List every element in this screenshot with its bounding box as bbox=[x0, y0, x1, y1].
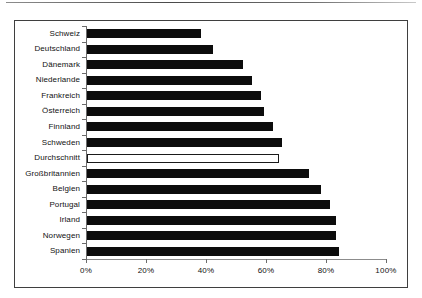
x-axis-tick-label: 40% bbox=[186, 266, 226, 275]
category-axis-tick bbox=[82, 57, 86, 58]
category-label: Finnland bbox=[0, 122, 80, 131]
bar bbox=[87, 122, 273, 131]
category-label: Durchschnitt bbox=[0, 153, 80, 162]
category-label: Niederlande bbox=[0, 75, 80, 84]
bar bbox=[87, 45, 213, 54]
category-label: Schweden bbox=[0, 138, 80, 147]
category-axis-tick bbox=[82, 119, 86, 120]
category-axis-tick bbox=[82, 197, 86, 198]
category-axis-tick bbox=[82, 26, 86, 27]
bar bbox=[87, 231, 336, 240]
x-axis-tick-label: 20% bbox=[126, 266, 166, 275]
bar bbox=[87, 138, 282, 147]
bar-average bbox=[87, 154, 279, 163]
x-axis-tick bbox=[386, 259, 387, 263]
x-axis-tick bbox=[146, 259, 147, 263]
x-axis-tick-label: 60% bbox=[246, 266, 286, 275]
category-axis-tick bbox=[82, 228, 86, 229]
x-axis-tick-label: 100% bbox=[366, 266, 406, 275]
category-axis-tick bbox=[82, 150, 86, 151]
category-label: Norwegen bbox=[0, 231, 80, 240]
plot-area: 0%20%40%60%80%100% SchweizDeutschlandDän… bbox=[86, 26, 386, 274]
category-label: Österreich bbox=[0, 106, 80, 115]
bar bbox=[87, 60, 243, 69]
x-axis-tick bbox=[86, 259, 87, 263]
category-axis-tick bbox=[82, 88, 86, 89]
bar bbox=[87, 185, 321, 194]
x-axis-tick bbox=[326, 259, 327, 263]
category-label: Belgien bbox=[0, 184, 80, 193]
category-axis-tick bbox=[82, 259, 86, 260]
category-label: Dänemark bbox=[0, 60, 80, 69]
category-axis-tick bbox=[82, 212, 86, 213]
category-label: Schweiz bbox=[0, 29, 80, 38]
category-axis-tick bbox=[82, 181, 86, 182]
chart-frame: 0%20%40%60%80%100% SchweizDeutschlandDän… bbox=[14, 20, 408, 288]
category-label: Deutschland bbox=[0, 44, 80, 53]
category-label: Portugal bbox=[0, 200, 80, 209]
category-label: Spanien bbox=[0, 246, 80, 255]
category-axis-tick bbox=[82, 135, 86, 136]
category-label: Frankreich bbox=[0, 91, 80, 100]
bar bbox=[87, 107, 264, 116]
bar bbox=[87, 29, 201, 38]
page-top-rule bbox=[6, 2, 416, 3]
x-axis-tick bbox=[266, 259, 267, 263]
bar bbox=[87, 247, 339, 256]
x-axis-tick bbox=[206, 259, 207, 263]
category-axis-tick bbox=[82, 243, 86, 244]
category-axis-tick bbox=[82, 42, 86, 43]
category-axis-line bbox=[86, 259, 386, 260]
bar bbox=[87, 200, 330, 209]
x-axis-tick-label: 0% bbox=[66, 266, 106, 275]
bar bbox=[87, 91, 261, 100]
bar bbox=[87, 76, 252, 85]
category-label: Großbritannien bbox=[0, 169, 80, 178]
category-axis-tick bbox=[82, 166, 86, 167]
category-label: Irland bbox=[0, 215, 80, 224]
bar bbox=[87, 169, 309, 178]
chart-page: 0%20%40%60%80%100% SchweizDeutschlandDän… bbox=[0, 0, 422, 298]
bar bbox=[87, 216, 336, 225]
category-axis-tick bbox=[82, 73, 86, 74]
category-axis-tick bbox=[82, 104, 86, 105]
x-axis-tick-label: 80% bbox=[306, 266, 346, 275]
